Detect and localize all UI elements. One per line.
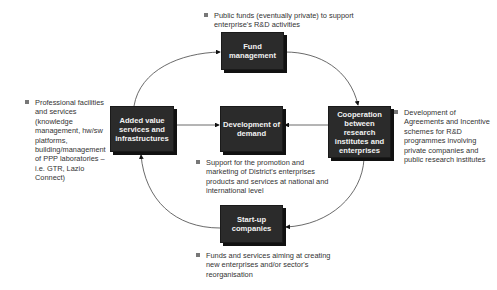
- note-added: Professional facilities and services (kn…: [25, 98, 109, 183]
- node-start-up-companies: Start-up companies: [220, 205, 283, 243]
- note-demand-text: Support for the promotion and marketing …: [206, 158, 328, 195]
- arrow-added-to-fund: [134, 52, 220, 106]
- bullet-icon: [196, 160, 200, 164]
- note-fund: Public funds (eventually private) to sup…: [204, 11, 354, 30]
- node-added-value-services: Added value services and infrastructures: [110, 106, 174, 152]
- note-coop: Development of Agreements and Incentive …: [394, 108, 494, 164]
- bullet-icon: [196, 253, 200, 257]
- note-startup-text: Funds and services aiming at creating ne…: [206, 251, 330, 279]
- note-demand: Support for the promotion and marketing …: [196, 158, 331, 196]
- node-fund-management: Fund management: [221, 32, 284, 70]
- cycle-diagram: Fund management Added value services and…: [0, 0, 497, 290]
- bullet-icon: [25, 100, 29, 104]
- note-added-text: Professional facilities and services (kn…: [35, 98, 106, 182]
- node-cooperation: Cooperation between research institutes …: [328, 106, 391, 158]
- note-coop-text: Development of Agreements and Incentive …: [404, 108, 490, 164]
- arrow-fund-to-coop: [285, 52, 358, 105]
- note-fund-text: Public funds (eventually private) to sup…: [214, 11, 354, 29]
- node-development-of-demand: Development of demand: [220, 106, 283, 152]
- bullet-icon: [204, 13, 208, 17]
- bullet-icon: [394, 110, 398, 114]
- note-startup: Funds and services aiming at creating ne…: [196, 251, 331, 279]
